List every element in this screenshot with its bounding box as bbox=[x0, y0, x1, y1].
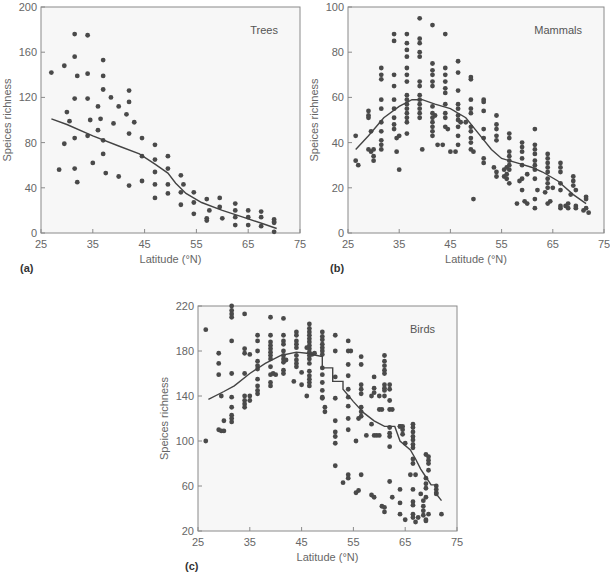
data-point bbox=[382, 353, 387, 358]
data-point bbox=[443, 102, 448, 107]
data-point bbox=[272, 220, 277, 225]
data-point bbox=[284, 358, 289, 363]
data-point bbox=[566, 201, 571, 206]
data-point bbox=[281, 333, 286, 338]
data-point bbox=[299, 382, 304, 387]
data-point bbox=[584, 197, 589, 202]
data-point bbox=[558, 206, 563, 211]
data-point bbox=[281, 342, 286, 347]
x-tick-label: 45 bbox=[138, 238, 150, 250]
data-point bbox=[430, 72, 435, 77]
data-point bbox=[411, 461, 416, 466]
data-point bbox=[372, 495, 377, 500]
data-point bbox=[433, 113, 438, 118]
data-point bbox=[346, 427, 351, 432]
data-point bbox=[242, 405, 247, 410]
data-point bbox=[453, 149, 458, 154]
data-point bbox=[448, 149, 453, 154]
data-point bbox=[307, 383, 312, 388]
data-point bbox=[348, 349, 353, 354]
data-point bbox=[377, 433, 382, 438]
data-point bbox=[545, 161, 550, 166]
data-point bbox=[229, 419, 234, 424]
data-point bbox=[421, 508, 426, 513]
data-point bbox=[371, 147, 376, 152]
data-point bbox=[366, 109, 371, 114]
data-point bbox=[392, 97, 397, 102]
data-point bbox=[140, 179, 145, 184]
data-point bbox=[404, 93, 409, 98]
data-point bbox=[443, 111, 448, 116]
data-point bbox=[515, 201, 520, 206]
data-point bbox=[379, 147, 384, 152]
data-point bbox=[456, 106, 461, 111]
data-point bbox=[413, 520, 418, 525]
data-point bbox=[132, 120, 137, 125]
data-point bbox=[255, 338, 260, 343]
data-point bbox=[166, 182, 171, 187]
data-point bbox=[543, 190, 548, 195]
data-point bbox=[255, 383, 260, 388]
data-point bbox=[430, 133, 435, 138]
data-point bbox=[273, 372, 278, 377]
data-point bbox=[507, 167, 512, 172]
data-point bbox=[233, 201, 238, 206]
y-tick-label: 100 bbox=[326, 1, 344, 13]
data-point bbox=[379, 142, 384, 147]
data-point bbox=[356, 163, 361, 168]
data-point bbox=[216, 372, 221, 377]
data-point bbox=[404, 120, 409, 125]
data-point bbox=[494, 138, 499, 143]
y-tick-label: 0 bbox=[338, 227, 344, 239]
data-point bbox=[229, 315, 234, 320]
data-point bbox=[353, 158, 358, 163]
data-point bbox=[222, 418, 227, 423]
data-point bbox=[404, 41, 409, 46]
data-point bbox=[217, 196, 222, 201]
data-point bbox=[443, 32, 448, 37]
data-point bbox=[404, 66, 409, 71]
data-point bbox=[96, 104, 101, 109]
data-point bbox=[307, 356, 312, 361]
x-tick-label: 75 bbox=[451, 536, 463, 548]
data-point bbox=[109, 95, 114, 100]
data-point bbox=[468, 77, 473, 82]
data-point bbox=[558, 170, 563, 175]
series-title: Mammals bbox=[534, 24, 582, 36]
scatter-chart-trees: 25354555657504080120160200Latitude (°N)S… bbox=[0, 0, 305, 260]
data-point bbox=[411, 437, 416, 442]
data-point bbox=[85, 71, 90, 76]
data-point bbox=[411, 430, 416, 435]
data-point bbox=[379, 97, 384, 102]
data-point bbox=[354, 439, 359, 444]
data-point bbox=[408, 472, 413, 477]
data-point bbox=[424, 518, 429, 523]
data-point bbox=[525, 201, 530, 206]
data-point bbox=[545, 201, 550, 206]
data-point bbox=[307, 322, 312, 327]
data-point bbox=[481, 156, 486, 161]
data-point bbox=[417, 93, 422, 98]
data-point bbox=[404, 32, 409, 37]
data-point bbox=[571, 179, 576, 184]
data-point bbox=[204, 218, 209, 223]
data-point bbox=[387, 382, 392, 387]
data-point bbox=[153, 142, 158, 147]
data-point bbox=[443, 79, 448, 84]
data-point bbox=[430, 104, 435, 109]
data-point bbox=[294, 333, 299, 338]
y-tick-label: 120 bbox=[19, 91, 37, 103]
data-point bbox=[418, 491, 423, 496]
data-point bbox=[573, 206, 578, 211]
data-point bbox=[404, 111, 409, 116]
data-point bbox=[127, 131, 132, 136]
data-point bbox=[390, 407, 395, 412]
data-point bbox=[443, 115, 448, 120]
data-point bbox=[369, 422, 374, 427]
data-point bbox=[379, 72, 384, 77]
data-point bbox=[259, 209, 264, 214]
data-point bbox=[124, 112, 129, 117]
plot-area bbox=[41, 7, 300, 233]
data-point bbox=[242, 394, 247, 399]
data-point bbox=[372, 374, 377, 379]
